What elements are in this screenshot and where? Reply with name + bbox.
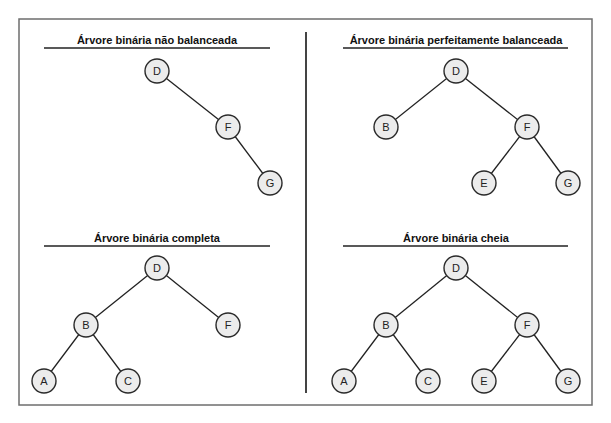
tree-node-d: D bbox=[145, 256, 169, 280]
node-label: A bbox=[40, 375, 48, 387]
node-label: C bbox=[124, 375, 132, 387]
node-label: B bbox=[382, 319, 389, 331]
tree-node-d: D bbox=[444, 59, 468, 83]
binary-trees-diagram: Árvore binária não balanceada DFG Árvore… bbox=[0, 0, 611, 423]
edge-d-f bbox=[157, 71, 228, 127]
tree-node-f: F bbox=[216, 313, 240, 337]
node-label: F bbox=[524, 121, 531, 133]
edge-d-b bbox=[386, 71, 456, 127]
node-label: D bbox=[153, 262, 161, 274]
node-label: B bbox=[382, 121, 389, 133]
tree-node-a: A bbox=[332, 369, 356, 393]
tree-node-f: F bbox=[216, 115, 240, 139]
tree-node-e: E bbox=[472, 171, 496, 195]
node-label: G bbox=[564, 375, 573, 387]
node-label: B bbox=[82, 319, 89, 331]
tree-node-a: A bbox=[32, 369, 56, 393]
tree-node-g: G bbox=[556, 171, 580, 195]
edge-d-f bbox=[456, 268, 527, 325]
node-label: C bbox=[424, 375, 432, 387]
node-label: D bbox=[153, 65, 161, 77]
node-label: E bbox=[480, 375, 487, 387]
node-label: D bbox=[452, 65, 460, 77]
tree-node-b: B bbox=[374, 115, 398, 139]
edge-d-f bbox=[157, 268, 228, 325]
panel-title: Árvore binária perfeitamente balanceada bbox=[350, 34, 564, 46]
node-label: F bbox=[524, 319, 531, 331]
panel-complete: Árvore binária completa DBFAC bbox=[32, 232, 270, 393]
tree-node-g: G bbox=[258, 171, 282, 195]
tree-node-c: C bbox=[116, 369, 140, 393]
tree-node-b: B bbox=[374, 313, 398, 337]
node-label: E bbox=[480, 177, 487, 189]
tree-node-b: B bbox=[74, 313, 98, 337]
node-label: G bbox=[564, 177, 573, 189]
tree-node-c: C bbox=[416, 369, 440, 393]
tree-node-f: F bbox=[515, 115, 539, 139]
tree-node-d: D bbox=[444, 256, 468, 280]
node-label: A bbox=[340, 375, 348, 387]
node-label: F bbox=[225, 319, 232, 331]
node-label: G bbox=[266, 177, 275, 189]
edge-d-b bbox=[386, 268, 456, 325]
panel-title: Árvore binária não balanceada bbox=[77, 34, 238, 46]
node-label: D bbox=[452, 262, 460, 274]
panel-unbalanced: Árvore binária não balanceada DFG bbox=[44, 34, 282, 195]
tree-node-f: F bbox=[515, 313, 539, 337]
panel-full: Árvore binária cheia DBFACEG bbox=[332, 232, 580, 393]
panel-title: Árvore binária completa bbox=[94, 232, 221, 244]
panel-perfectly-balanced: Árvore binária perfeitamente balanceada … bbox=[343, 34, 580, 195]
tree-node-g: G bbox=[556, 369, 580, 393]
tree-node-e: E bbox=[472, 369, 496, 393]
edge-d-f bbox=[456, 71, 527, 127]
tree-node-d: D bbox=[145, 59, 169, 83]
node-label: F bbox=[225, 121, 232, 133]
panel-title: Árvore binária cheia bbox=[403, 232, 510, 244]
edge-d-b bbox=[86, 268, 157, 325]
